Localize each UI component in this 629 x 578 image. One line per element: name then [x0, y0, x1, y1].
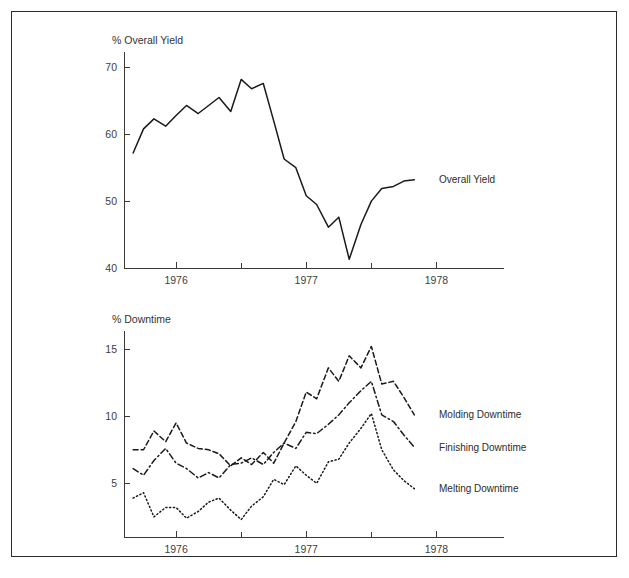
- chart-panel-downtime: % Downtime51015197619771978Molding Downt…: [90, 301, 560, 573]
- figure-border: % Overall Yield40506070197619771978Overa…: [11, 11, 617, 557]
- y-tick-label: 5: [111, 477, 117, 489]
- series-line-melting-downtime: [133, 414, 414, 520]
- overall-yield-plot: % Overall Yield40506070197619771978Overa…: [90, 30, 560, 292]
- series-label-finishing-downtime: Finishing Downtime: [439, 442, 527, 453]
- y-tick-label: 50: [105, 195, 117, 207]
- y-tick-label: 70: [105, 61, 117, 73]
- downtime-plot: % Downtime51015197619771978Molding Downt…: [90, 301, 560, 573]
- x-tick-label: 1976: [164, 543, 188, 555]
- y-axis-title: % Downtime: [112, 313, 171, 325]
- figure-page: % Overall Yield40506070197619771978Overa…: [0, 0, 629, 578]
- chart-panel-overall-yield: % Overall Yield40506070197619771978Overa…: [90, 30, 560, 292]
- series-label-molding-downtime: Molding Downtime: [439, 409, 522, 420]
- series-label-overall-yield: Overall Yield: [439, 174, 495, 185]
- y-tick-label: 40: [105, 262, 117, 274]
- series-line-molding-downtime: [133, 346, 414, 465]
- x-tick-label: 1978: [425, 543, 449, 555]
- x-tick-label: 1977: [295, 274, 319, 286]
- y-tick-label: 15: [105, 343, 117, 355]
- x-tick-label: 1978: [425, 274, 449, 286]
- x-tick-label: 1976: [164, 274, 188, 286]
- series-line-overall-yield: [133, 79, 414, 259]
- series-label-melting-downtime: Melting Downtime: [439, 483, 519, 494]
- y-tick-label: 10: [105, 410, 117, 422]
- axis-lines: [124, 52, 504, 268]
- y-tick-label: 60: [105, 128, 117, 140]
- x-tick-label: 1977: [295, 543, 319, 555]
- y-axis-title: % Overall Yield: [112, 34, 183, 46]
